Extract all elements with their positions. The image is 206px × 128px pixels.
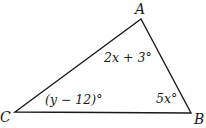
angle-label-b: 5x° xyxy=(156,91,177,106)
vertex-label-a: A xyxy=(133,1,145,17)
angle-label-c: (y − 12)° xyxy=(45,92,102,107)
vertex-label-c: C xyxy=(0,109,11,125)
angle-label-a: 2x + 3° xyxy=(103,50,152,65)
triangle-diagram: A B C 2x + 3° 5x° (y − 12)° xyxy=(0,0,206,128)
vertex-label-b: B xyxy=(193,111,204,127)
